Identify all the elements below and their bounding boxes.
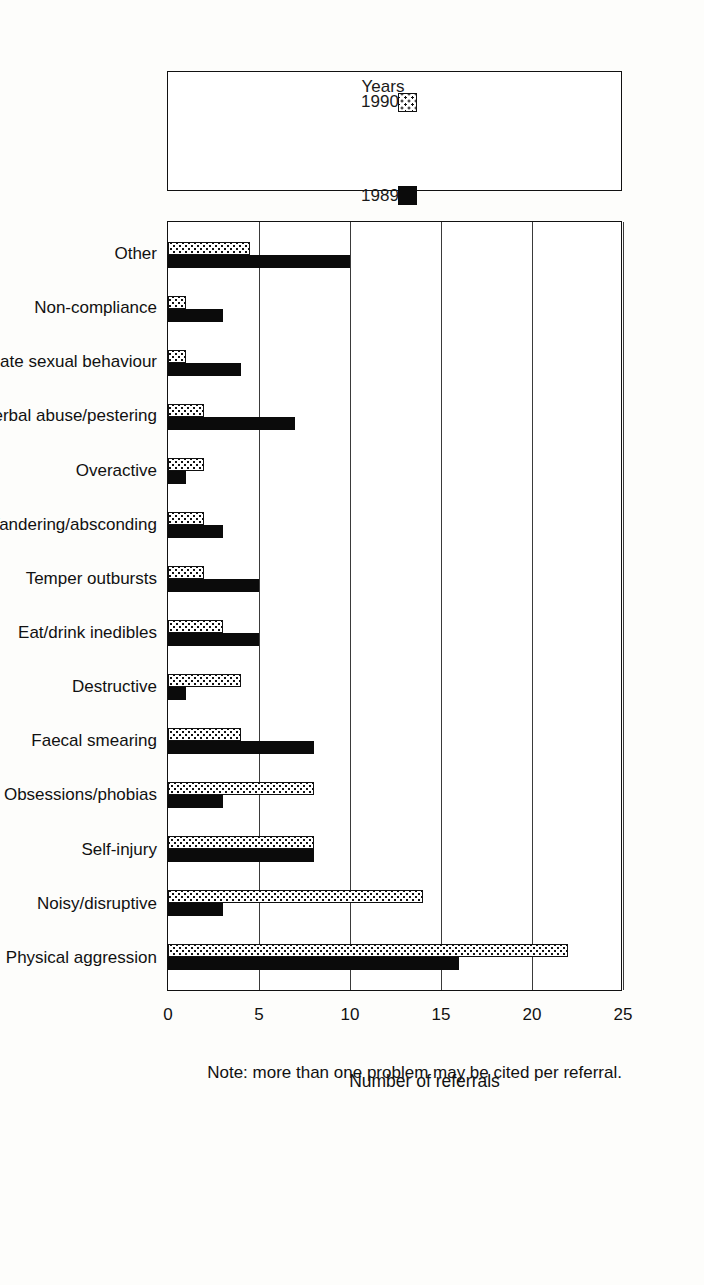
- bar-1990: [168, 296, 186, 309]
- category-label: Faecal smearing: [31, 731, 157, 751]
- category-label: Obsessions/phobias: [4, 785, 157, 805]
- bar-1989: [168, 363, 241, 376]
- tick-label-0: 0: [163, 1005, 172, 1025]
- tick-label-25: 25: [614, 1005, 633, 1025]
- chart-legend: Years 1989 1990: [167, 71, 622, 191]
- legend-item-1990: 1990: [370, 83, 417, 121]
- bar-1989: [168, 255, 350, 268]
- bar-group: [168, 606, 621, 660]
- category-label: Verbal abuse/pestering: [0, 406, 157, 426]
- bar-group: [168, 444, 621, 498]
- legend-item-1989: 1989: [370, 177, 417, 215]
- bar-1989: [168, 471, 186, 484]
- bar-group: [168, 552, 621, 606]
- bar-1990: [168, 458, 204, 471]
- category-label: Eat/drink inedibles: [18, 623, 157, 643]
- bar-1990: [168, 620, 223, 633]
- bar-1989: [168, 903, 223, 916]
- legend-swatch-1990: [398, 92, 417, 111]
- bar-1989: [168, 579, 259, 592]
- rotated-figure-stage: Years 1989 1990 0510152025: [52, 53, 652, 1233]
- bar-1989: [168, 525, 223, 538]
- bar-1990: [168, 728, 241, 741]
- bar-1989: [168, 309, 223, 322]
- bar-1990: [168, 242, 250, 255]
- bar-1990: [168, 566, 204, 579]
- bar-1990: [168, 944, 568, 957]
- legend-label-1990: 1990: [361, 92, 399, 112]
- bar-group: [168, 768, 621, 822]
- bar-1989: [168, 741, 314, 754]
- legend-entries: 1989 1990: [166, 106, 621, 192]
- category-label: Self-injury: [81, 839, 157, 859]
- category-label: Temper outbursts: [26, 568, 157, 588]
- bar-group: [168, 336, 621, 390]
- tick-label-15: 15: [432, 1005, 451, 1025]
- bar-group: [168, 498, 621, 552]
- bars-container: [168, 222, 621, 990]
- tick-label-5: 5: [254, 1005, 263, 1025]
- plot-area: [167, 221, 622, 991]
- category-label: Physical aggression: [6, 947, 157, 967]
- bar-1989: [168, 417, 295, 430]
- bar-1989: [168, 687, 186, 700]
- tick-label-10: 10: [341, 1005, 360, 1025]
- bar-chart-figure: Years 1989 1990 0510152025: [52, 53, 652, 1233]
- legend-swatch-1989: [398, 186, 417, 205]
- bar-group: [168, 714, 621, 768]
- bar-1989: [168, 849, 314, 862]
- category-label: Wandering/absconding: [0, 514, 157, 534]
- chart-note-text: Note: more than one problem may be cited…: [207, 1063, 622, 1083]
- bar-group: [168, 282, 621, 336]
- category-label: Overactive: [76, 460, 157, 480]
- category-label: Noisy/disruptive: [37, 893, 157, 913]
- bar-1990: [168, 512, 204, 525]
- bar-1989: [168, 795, 223, 808]
- category-label: Destructive: [72, 677, 157, 697]
- bar-1990: [168, 782, 314, 795]
- bar-group: [168, 390, 621, 444]
- category-label: Other: [114, 244, 157, 264]
- bar-group: [168, 930, 621, 984]
- category-label: Non-compliance: [34, 298, 157, 318]
- bar-group: [168, 876, 621, 930]
- legend-label-1989: 1989: [361, 185, 399, 205]
- category-label: Inappropriate sexual behaviour: [0, 352, 157, 372]
- gridline-25: [623, 222, 624, 990]
- bar-1990: [168, 836, 314, 849]
- bar-1990: [168, 890, 423, 903]
- bar-1990: [168, 674, 241, 687]
- bar-1989: [168, 957, 459, 970]
- legend-inner: Years 1989 1990: [166, 72, 621, 192]
- bar-1989: [168, 633, 259, 646]
- bar-group: [168, 660, 621, 714]
- tick-label-20: 20: [523, 1005, 542, 1025]
- bar-1990: [168, 350, 186, 363]
- bar-1990: [168, 404, 204, 417]
- bar-group: [168, 228, 621, 282]
- bar-group: [168, 822, 621, 876]
